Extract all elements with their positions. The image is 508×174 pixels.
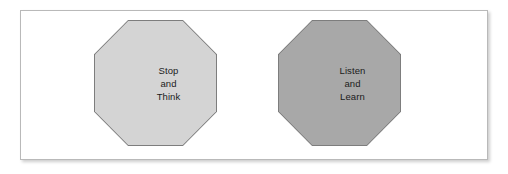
octagon-listen-learn: Listen and Learn <box>278 20 401 146</box>
figure-panel: Stop and Think Listen and Learn <box>20 10 488 160</box>
octagon-stop-think: Stop and Think <box>94 20 217 146</box>
octagon-listen-learn-fill <box>279 21 400 145</box>
octagon-stop-think-fill <box>95 21 216 145</box>
